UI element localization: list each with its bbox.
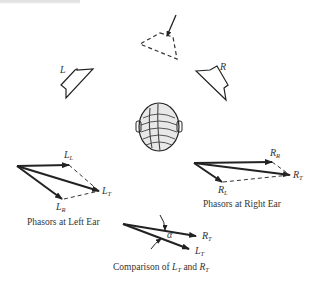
label-LT: LT — [101, 185, 112, 197]
caption-left-ear: Phasors at Left Ear — [27, 217, 100, 227]
label-LR: LR — [55, 201, 66, 213]
virtual-speaker — [140, 33, 177, 59]
phasor-comp-RT — [123, 224, 196, 236]
right-ear-phasors — [194, 162, 290, 182]
comparison-phasors — [123, 215, 196, 249]
phasor-comp-LT — [123, 224, 189, 249]
caption-right-ear: Phasors at Right Ear — [203, 199, 282, 209]
label-comp-RT: RT — [201, 230, 212, 242]
phasor-LR — [17, 166, 62, 199]
dashed-LR-LT — [64, 191, 99, 199]
virtual-source-arrow — [167, 15, 176, 36]
phasor-LL — [17, 165, 69, 166]
angle-arc-top — [160, 215, 165, 230]
left-speaker-label: L — [59, 64, 66, 75]
dashed-RL-RT — [223, 175, 290, 182]
label-LL: LL — [63, 149, 74, 161]
phasor-RR — [194, 162, 272, 163]
left-speaker-icon — [61, 69, 93, 98]
label-RR: RR — [269, 147, 280, 159]
angle-arc-bottom — [151, 239, 161, 249]
listener-head-icon — [136, 103, 182, 151]
left-ear-phasors — [17, 165, 99, 199]
caption-comparison: Comparison of LT and RT — [113, 262, 209, 273]
phasor-LT — [17, 166, 99, 191]
stereo-phasor-diagram: L R LL LT LR Phasors at Left Ear RR RT R… — [0, 0, 320, 282]
right-speaker-label: R — [219, 61, 226, 72]
label-RT: RT — [292, 169, 303, 181]
label-comp-LT: LT — [194, 245, 205, 257]
label-RL: RL — [217, 184, 228, 196]
angle-alpha-label: α — [167, 229, 173, 240]
